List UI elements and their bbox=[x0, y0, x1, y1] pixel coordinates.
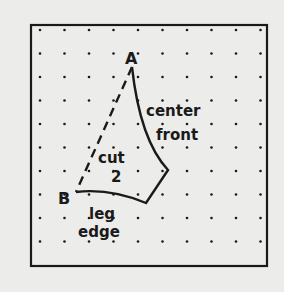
grid-dot bbox=[137, 170, 140, 173]
grid-dot bbox=[161, 76, 164, 79]
grid-dot bbox=[112, 29, 115, 32]
grid-dot bbox=[39, 123, 42, 126]
grid-dot bbox=[235, 52, 238, 55]
point-b-label: B bbox=[58, 189, 70, 208]
grid-dot bbox=[210, 52, 213, 55]
edge-label: edge bbox=[78, 223, 120, 241]
grid-dot bbox=[161, 146, 164, 149]
grid-dot bbox=[161, 217, 164, 220]
grid-dot bbox=[137, 193, 140, 196]
grid-dot bbox=[259, 99, 262, 102]
grid-dot bbox=[63, 146, 66, 149]
grid-dot bbox=[259, 170, 262, 173]
grid-dot bbox=[210, 99, 213, 102]
grid-dot bbox=[112, 52, 115, 55]
grid-dot bbox=[112, 76, 115, 79]
grid-dot bbox=[259, 217, 262, 220]
grid-dot bbox=[88, 170, 91, 173]
grid-dot bbox=[210, 217, 213, 220]
grid-dot bbox=[88, 29, 91, 32]
grid-dot bbox=[39, 193, 42, 196]
grid-dot bbox=[88, 146, 91, 149]
grid-dot bbox=[112, 99, 115, 102]
grid-dot bbox=[161, 29, 164, 32]
grid-dot bbox=[39, 240, 42, 243]
grid-dot bbox=[186, 29, 189, 32]
grid-dot bbox=[235, 123, 238, 126]
grid-dot bbox=[259, 76, 262, 79]
grid-dot bbox=[186, 240, 189, 243]
grid-dot bbox=[63, 29, 66, 32]
grid-dot bbox=[235, 193, 238, 196]
grid-dot bbox=[63, 170, 66, 173]
grid-dot bbox=[186, 52, 189, 55]
grid-dot bbox=[63, 240, 66, 243]
grid-dot bbox=[39, 29, 42, 32]
grid-dot bbox=[161, 170, 164, 173]
grid-dot bbox=[161, 52, 164, 55]
grid-dot bbox=[88, 52, 91, 55]
grid-dot bbox=[259, 193, 262, 196]
grid-dot bbox=[39, 76, 42, 79]
grid-dot bbox=[186, 193, 189, 196]
grid-dot bbox=[137, 217, 140, 220]
grid-dot bbox=[210, 193, 213, 196]
grid-dot bbox=[137, 123, 140, 126]
grid-dot bbox=[210, 76, 213, 79]
grid-dot bbox=[235, 76, 238, 79]
grid-dot bbox=[235, 99, 238, 102]
grid-dot bbox=[63, 76, 66, 79]
grid-dot bbox=[259, 146, 262, 149]
point-a-label: A bbox=[125, 49, 138, 68]
grid-dot bbox=[137, 29, 140, 32]
grid-dot bbox=[63, 217, 66, 220]
grid-dot bbox=[259, 52, 262, 55]
grid-dot bbox=[63, 52, 66, 55]
grid-dot bbox=[235, 170, 238, 173]
grid-dot bbox=[235, 29, 238, 32]
grid-dot bbox=[186, 217, 189, 220]
grid-dot bbox=[259, 29, 262, 32]
grid-dot bbox=[63, 123, 66, 126]
grid-dot bbox=[88, 99, 91, 102]
cut-count-label: 2 bbox=[111, 168, 121, 186]
grid-dot bbox=[210, 123, 213, 126]
grid-dot bbox=[137, 146, 140, 149]
grid-dot bbox=[235, 240, 238, 243]
grid-dot bbox=[259, 123, 262, 126]
grid-dot bbox=[88, 76, 91, 79]
grid-dot bbox=[39, 170, 42, 173]
grid-dot bbox=[137, 240, 140, 243]
grid-dot bbox=[259, 240, 262, 243]
grid-dot bbox=[210, 170, 213, 173]
grid-frame bbox=[31, 25, 267, 266]
dot-grid bbox=[39, 29, 262, 243]
center-label: center bbox=[146, 102, 201, 120]
grid-dot bbox=[186, 76, 189, 79]
grid-dot bbox=[112, 123, 115, 126]
grid-dot bbox=[63, 99, 66, 102]
grid-dot bbox=[39, 52, 42, 55]
cut-label: cut bbox=[98, 149, 125, 167]
grid-dot bbox=[186, 146, 189, 149]
front-label: front bbox=[156, 126, 198, 144]
grid-dot bbox=[39, 217, 42, 220]
grid-dot bbox=[186, 170, 189, 173]
grid-dot bbox=[161, 240, 164, 243]
pattern-diagram: A B center front cut 2 leg edge bbox=[0, 0, 284, 292]
grid-dot bbox=[210, 240, 213, 243]
grid-dot bbox=[186, 123, 189, 126]
fold-line-dashed bbox=[76, 67, 132, 192]
grid-dot bbox=[39, 146, 42, 149]
grid-dot bbox=[161, 193, 164, 196]
grid-dot bbox=[235, 146, 238, 149]
grid-dot bbox=[137, 76, 140, 79]
grid-dot bbox=[88, 193, 91, 196]
grid-dot bbox=[88, 123, 91, 126]
leg-label: leg bbox=[89, 205, 115, 223]
grid-dot bbox=[210, 29, 213, 32]
grid-dot bbox=[235, 217, 238, 220]
grid-dot bbox=[39, 99, 42, 102]
grid-dot bbox=[210, 146, 213, 149]
grid-dot bbox=[161, 123, 164, 126]
